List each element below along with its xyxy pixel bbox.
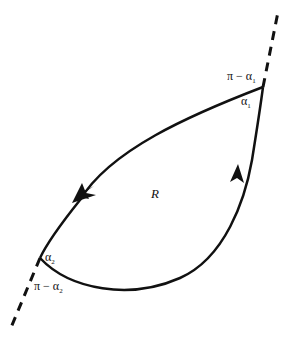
arrow-head-up [230,164,244,183]
dashed-tangent-line-lower [10,258,40,330]
arrow-head-left [72,183,96,203]
contour-arc-upper [40,87,263,258]
interior-angle-label-1: α1 [241,94,251,110]
dashed-tangent-line-upper [263,12,278,87]
region-label: R [150,186,159,201]
contour-diagram: R π − α1 α1 α2 π − α2 [0,0,281,340]
interior-angle-label-2: α2 [45,250,55,266]
exterior-angle-label-2: π − α2 [34,279,63,295]
exterior-angle-label-1: π − α1 [227,69,256,85]
